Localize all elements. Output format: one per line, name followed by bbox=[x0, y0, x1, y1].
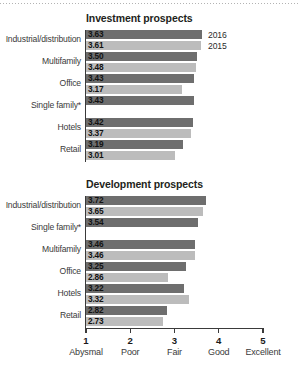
x-tick-word: Abysmal bbox=[69, 347, 102, 357]
bar-value-label: 3.43 bbox=[88, 96, 103, 105]
bar-value-label: 3.37 bbox=[88, 129, 103, 138]
bar-value-label: 3.22 bbox=[88, 284, 103, 293]
bar-value-label: 3.54 bbox=[88, 218, 103, 227]
bar-2015 bbox=[86, 207, 203, 216]
bar-value-label: 3.42 bbox=[88, 118, 103, 127]
chart-row: Single family*3.54 bbox=[0, 218, 299, 240]
chart-figure: Investment prospectsIndustrial/distribut… bbox=[0, 0, 299, 368]
bar-value-label: 2.73 bbox=[88, 317, 103, 326]
chart-row: Single family*3.43 bbox=[0, 96, 299, 118]
category-label: Retail bbox=[60, 310, 81, 320]
top-divider-rule bbox=[0, 3, 299, 4]
bar-value-label: 3.46 bbox=[88, 251, 103, 260]
chart-row: Industrial/distribution3.723.65 bbox=[0, 196, 299, 218]
category-label: Industrial/distribution bbox=[6, 34, 81, 44]
bar-value-label: 3.46 bbox=[88, 240, 103, 249]
x-tick-word: Poor bbox=[121, 347, 139, 357]
x-tick-number: 2 bbox=[128, 335, 133, 346]
bar-value-label: 3.72 bbox=[88, 196, 103, 205]
category-label: Multifamily bbox=[42, 244, 81, 254]
legend-item-2015: 2015 bbox=[208, 41, 227, 51]
x-axis-tick bbox=[130, 328, 131, 333]
chart-row: Hotels3.223.32 bbox=[0, 284, 299, 306]
x-tick-number: 4 bbox=[216, 335, 221, 346]
chart-title: Development prospects bbox=[86, 178, 203, 190]
bar-value-label: 3.50 bbox=[88, 52, 103, 61]
bar-value-label: 3.32 bbox=[88, 295, 103, 304]
category-label: Retail bbox=[60, 144, 81, 154]
bar-value-label: 3.61 bbox=[88, 41, 103, 50]
bar-value-label: 2.86 bbox=[88, 273, 103, 282]
chart-row: Hotels3.423.37 bbox=[0, 118, 299, 140]
chart-row: Retail3.193.01 bbox=[0, 140, 299, 162]
bar-value-label: 3.17 bbox=[88, 85, 103, 94]
bar-value-label: 3.48 bbox=[88, 63, 103, 72]
bar-value-label: 3.01 bbox=[88, 151, 103, 160]
chart-title: Investment prospects bbox=[86, 12, 193, 24]
category-label: Industrial/distribution bbox=[6, 200, 81, 210]
chart-row: Multifamily3.503.48 bbox=[0, 52, 299, 74]
x-tick-number: 1 bbox=[83, 335, 88, 346]
chart-row: Multifamily3.463.46 bbox=[0, 240, 299, 262]
chart-row: Industrial/distribution3.633.61 bbox=[0, 30, 299, 52]
category-label: Single family* bbox=[31, 100, 81, 110]
category-label: Office bbox=[60, 266, 81, 276]
legend-item-2016: 2016 bbox=[208, 30, 227, 40]
category-label: Multifamily bbox=[42, 56, 81, 66]
category-label: Office bbox=[60, 78, 81, 88]
bar-value-label: 3.25 bbox=[88, 262, 103, 271]
bar-2016 bbox=[86, 196, 206, 205]
bar-value-label: 3.43 bbox=[88, 74, 103, 83]
category-label: Hotels bbox=[58, 288, 81, 298]
x-axis-tick bbox=[85, 328, 86, 333]
bar-value-label: 3.63 bbox=[88, 30, 103, 39]
x-axis-tick bbox=[262, 328, 263, 333]
bar-2016 bbox=[86, 30, 202, 39]
category-label: Hotels bbox=[58, 122, 81, 132]
bar-value-label: 3.19 bbox=[88, 140, 103, 149]
x-tick-number: 3 bbox=[172, 335, 177, 346]
x-tick-word: Fair bbox=[167, 347, 182, 357]
x-tick-number: 5 bbox=[260, 335, 265, 346]
category-label: Single family* bbox=[31, 222, 81, 232]
chart-row: Office3.252.86 bbox=[0, 262, 299, 284]
chart-row: Office3.433.17 bbox=[0, 74, 299, 96]
bar-value-label: 2.82 bbox=[88, 306, 103, 315]
bar-value-label: 3.65 bbox=[88, 207, 103, 216]
x-axis-tick bbox=[174, 328, 175, 333]
x-tick-word: Excellent bbox=[245, 347, 280, 357]
x-tick-word: Good bbox=[208, 347, 229, 357]
chart-row: Retail2.822.73 bbox=[0, 306, 299, 328]
x-axis-tick bbox=[218, 328, 219, 333]
